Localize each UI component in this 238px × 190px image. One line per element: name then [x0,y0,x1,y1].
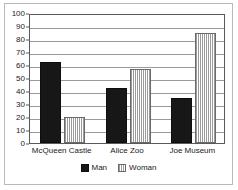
legend-label-woman: Woman [129,164,156,172]
legend-item-woman[interactable]: Woman [118,164,156,172]
x-axis-category-labels: McQueen CastleAlice ZooJoe Museum [29,146,225,158]
bar-woman-alice-zoo [130,69,151,143]
bar-woman-joe-museum [195,33,216,144]
y-axis-tick-label: 90 [16,23,25,31]
y-axis-tick-label: 0 [21,140,25,148]
chart-frame: 0102030405060708090100 McQueen CastleAli… [4,3,233,185]
bar-man-joe-museum [171,98,192,144]
y-axis-tick-label: 20 [16,114,25,122]
x-axis-label-alice-zoo: Alice Zoo [110,146,143,156]
y-axis-tick-label: 80 [16,36,25,44]
y-axis-tick-label: 70 [16,49,25,57]
y-axis-tick-label: 10 [16,127,25,135]
y-axis-tick-label: 60 [16,62,25,70]
bar-woman-mcqueen-castle [64,117,85,143]
y-axis-tick-label: 30 [16,101,25,109]
plot-area [29,14,225,144]
chart-legend: ManWoman [5,164,232,172]
plot-wrapper [29,14,225,144]
legend-item-man[interactable]: Man [81,164,108,172]
y-axis-tick-label: 100 [12,10,25,18]
y-axis: 0102030405060708090100 [5,14,29,144]
legend-label-man: Man [92,164,108,172]
x-axis-label-joe-museum: Joe Museum [169,146,215,156]
gridline [30,28,224,29]
y-axis-tick-label: 50 [16,75,25,83]
y-axis-tick-label: 40 [16,88,25,96]
legend-swatch-man [81,164,89,172]
bar-man-mcqueen-castle [40,62,61,143]
x-axis-label-mcqueen-castle: McQueen Castle [32,146,92,156]
bar-man-alice-zoo [106,88,127,143]
legend-swatch-woman [118,164,126,172]
